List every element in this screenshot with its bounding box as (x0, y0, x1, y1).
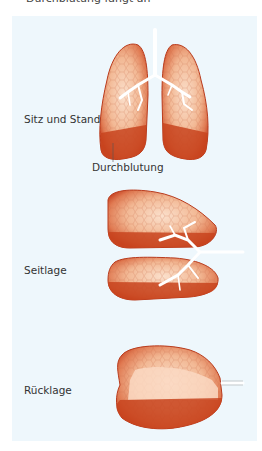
figure-panel: Sitz und Stand Durchblutung Seitlage Rüc… (12, 16, 257, 441)
lungs-lateral (108, 190, 243, 300)
lungs-upright (100, 30, 208, 162)
label-ruecklage: Rücklage (24, 384, 72, 396)
lung-illustrations (12, 16, 257, 441)
label-seitlage: Seitlage (24, 264, 67, 276)
label-durchblutung: Durchblutung (92, 161, 164, 173)
label-sitz-und-stand: Sitz und Stand (24, 113, 100, 125)
lungs-supine (116, 346, 243, 429)
figure-caption: Durchblutung fängt an (26, 0, 151, 5)
